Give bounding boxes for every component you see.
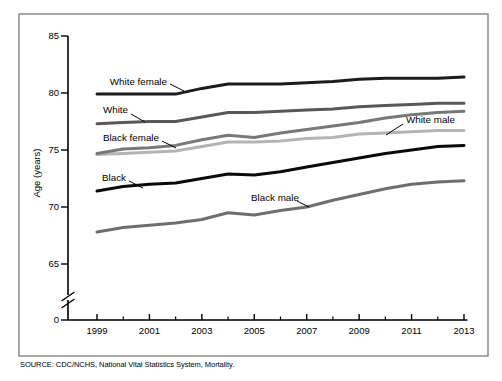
y-axis-title: Age (years) xyxy=(31,148,42,197)
y-tick-label: 80 xyxy=(48,87,59,98)
x-tick-label: 2003 xyxy=(191,325,212,336)
series-label-white: White xyxy=(103,104,129,115)
figure: 0657075808519992001200320052007200920112… xyxy=(0,0,502,381)
x-tick-label: 2001 xyxy=(139,325,160,336)
y-tick-label: 65 xyxy=(48,258,59,269)
series-leader-white-female xyxy=(170,84,184,91)
chart-canvas: 0657075808519992001200320052007200920112… xyxy=(0,0,502,381)
series-line-black-male xyxy=(97,181,464,232)
x-tick-label: 2007 xyxy=(296,325,317,336)
series-label-white-female: White female xyxy=(110,76,168,87)
series-label-black-male: Black male xyxy=(251,192,299,203)
series-label-white-male: White male xyxy=(406,114,456,125)
y-tick-label: 85 xyxy=(48,30,59,41)
series-label-black-female: Black female xyxy=(103,132,160,143)
y-tick-label: 0 xyxy=(54,314,59,325)
x-tick-label: 2013 xyxy=(453,325,474,336)
x-tick-label: 2011 xyxy=(401,325,421,336)
x-tick-label: 2009 xyxy=(349,325,370,336)
series-label-black: Black xyxy=(102,172,126,183)
y-tick-label: 70 xyxy=(48,201,59,212)
y-tick-label: 75 xyxy=(48,144,59,155)
x-tick-label: 2005 xyxy=(244,325,265,336)
source-note: SOURCE: CDC/NCHS, National Vital Statist… xyxy=(20,360,234,369)
x-tick-label: 1999 xyxy=(86,325,107,336)
